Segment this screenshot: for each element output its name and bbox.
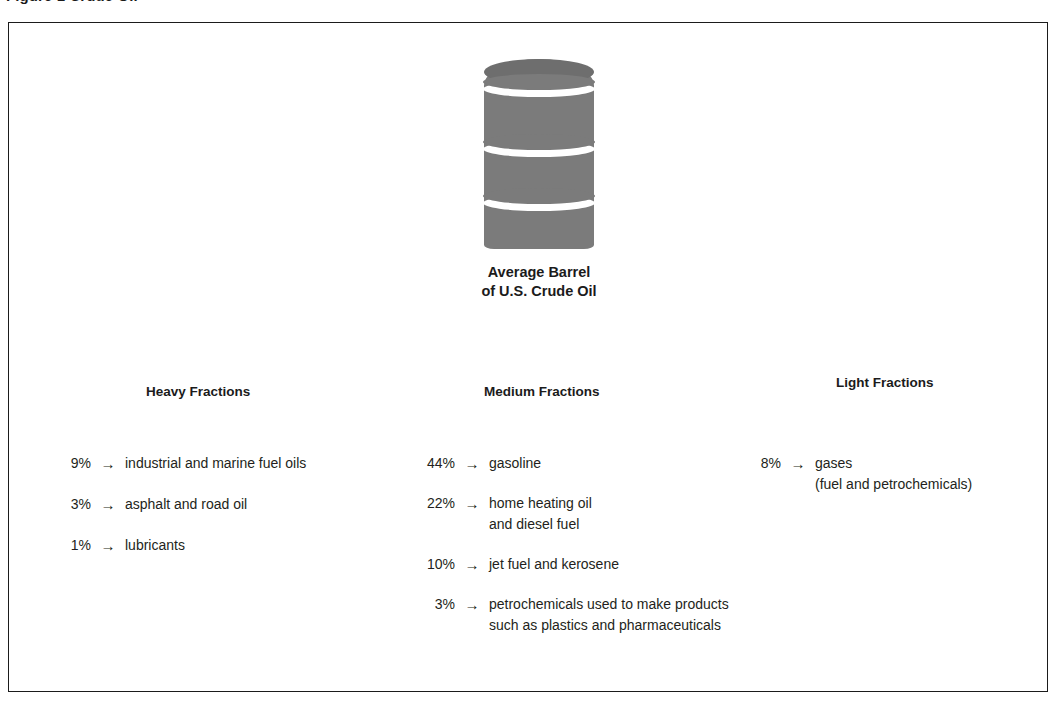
barrel-caption-line1: Average Barrel [464, 263, 614, 282]
fraction-product: gasoline [489, 453, 541, 474]
oil-barrel-icon [484, 59, 594, 249]
barrel-caption: Average Barrel of U.S. Crude Oil [464, 263, 614, 301]
fraction-list-medium: 44% → gasoline 22% → home heating oil an… [413, 453, 729, 655]
arrow-right-icon: → [455, 453, 489, 474]
arrow-right-icon: → [91, 453, 125, 474]
fraction-percent: 3% [49, 494, 91, 515]
fraction-percent: 3% [413, 594, 455, 615]
fraction-row: 3% → asphalt and road oil [49, 494, 306, 515]
fraction-product: jet fuel and kerosene [489, 554, 619, 575]
arrow-right-icon: → [455, 594, 489, 615]
fraction-product: home heating oil and diesel fuel [489, 493, 592, 535]
fraction-row: 10% → jet fuel and kerosene [413, 554, 729, 575]
fraction-product: lubricants [125, 535, 185, 556]
fraction-list-light: 8% → gases (fuel and petrochemicals) [739, 453, 972, 495]
barrel-block: Average Barrel of U.S. Crude Oil [464, 59, 614, 301]
fraction-row: 9% → industrial and marine fuel oils [49, 453, 306, 474]
figure-caption-clipped: Figure 1 Crude Oil [6, 0, 138, 4]
fraction-percent: 44% [413, 453, 455, 474]
fraction-product: gases [815, 455, 852, 471]
fraction-product: industrial and marine fuel oils [125, 453, 306, 474]
fraction-percent: 1% [49, 535, 91, 556]
fraction-product-note: (fuel and petrochemicals) [815, 474, 972, 495]
fraction-percent: 9% [49, 453, 91, 474]
arrow-right-icon: → [455, 554, 489, 575]
fraction-percent: 22% [413, 493, 455, 514]
fraction-percent: 8% [739, 453, 781, 474]
fraction-list-heavy: 9% → industrial and marine fuel oils 3% … [49, 453, 306, 576]
column-header-light: Light Fractions [836, 375, 934, 390]
fraction-row: 8% → gases (fuel and petrochemicals) [739, 453, 972, 495]
barrel-band-2 [483, 141, 595, 157]
barrel-caption-line2: of U.S. Crude Oil [464, 282, 614, 301]
arrow-right-icon: → [91, 494, 125, 515]
barrel-band-1 [483, 81, 595, 97]
arrow-right-icon: → [91, 535, 125, 556]
fraction-product: petrochemicals used to make products suc… [489, 594, 729, 636]
arrow-right-icon: → [455, 493, 489, 514]
fraction-percent: 10% [413, 554, 455, 575]
figure-frame: Average Barrel of U.S. Crude Oil Heavy F… [8, 22, 1048, 692]
fraction-row: 44% → gasoline [413, 453, 729, 474]
column-header-medium: Medium Fractions [484, 384, 600, 399]
fraction-row: 22% → home heating oil and diesel fuel [413, 493, 729, 535]
column-header-heavy: Heavy Fractions [146, 384, 250, 399]
fraction-row: 1% → lubricants [49, 535, 306, 556]
fraction-product-group: gases (fuel and petrochemicals) [815, 453, 972, 495]
fraction-product: asphalt and road oil [125, 494, 247, 515]
arrow-right-icon: → [781, 453, 815, 474]
barrel-band-3 [483, 195, 595, 211]
fraction-row: 3% → petrochemicals used to make product… [413, 594, 729, 636]
